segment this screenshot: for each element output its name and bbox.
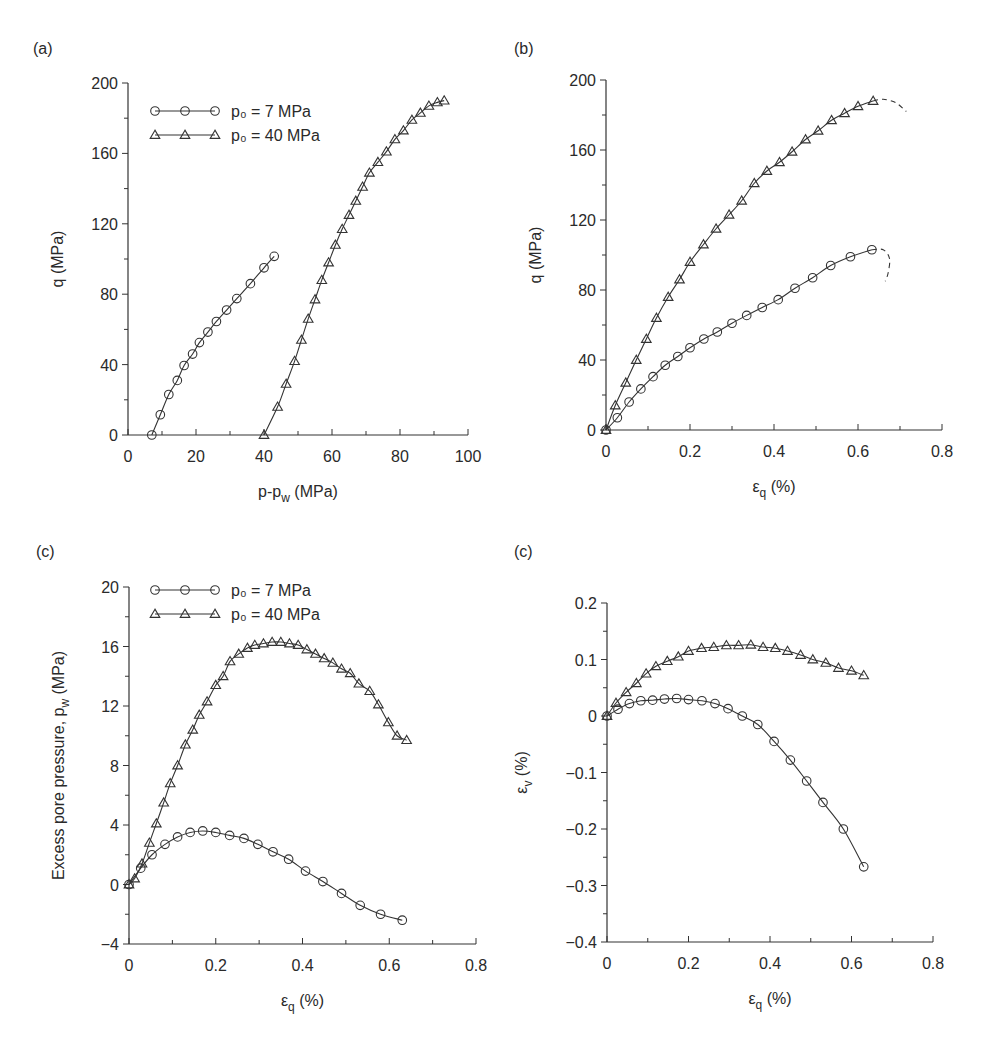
x-tick-label: 100 [455, 448, 482, 465]
y-axis-label: Excess pore pressure, pw (MPa) [50, 651, 72, 880]
y-axis-label: q (MPa) [49, 231, 66, 288]
x-axis-label: εq (%) [281, 992, 324, 1014]
y-tick-label: 40 [578, 352, 596, 369]
y-tick-label: 80 [100, 286, 118, 303]
x-tick-label: 80 [391, 448, 409, 465]
x-tick-label: 0.8 [465, 957, 487, 974]
y-axis-label: q (MPa) [527, 227, 544, 284]
x-tick-label: 0.2 [679, 443, 701, 460]
x-axis-label: εq (%) [752, 478, 795, 500]
triangle-marker-icon [210, 609, 220, 617]
series-line [607, 645, 864, 716]
y-tick-label: 0 [110, 877, 119, 894]
x-tick-label: 0 [124, 448, 133, 465]
panel-b-chart: 00.20.40.60.804080120160200εq (%)q (MPa) [527, 72, 953, 500]
y-tick-label: 0 [587, 422, 596, 439]
x-tick-label: 0.6 [847, 443, 869, 460]
y-tick-label: −0.2 [565, 821, 597, 838]
y-tick-label: 4 [110, 817, 119, 834]
x-tick-label: 0.6 [840, 955, 862, 972]
triangle-marker-icon [674, 652, 684, 660]
y-tick-label: 160 [569, 142, 596, 159]
x-tick-label: 0.4 [763, 443, 785, 460]
series-line [264, 101, 444, 435]
y-tick-label: 160 [91, 145, 118, 162]
triangle-marker-icon [210, 130, 220, 138]
y-tick-label: −4 [101, 936, 119, 953]
series-line [152, 256, 274, 435]
triangle-marker-icon [801, 135, 811, 143]
x-tick-label: 0 [603, 955, 612, 972]
x-tick-label: 0.2 [677, 955, 699, 972]
y-tick-label: −0.4 [565, 934, 597, 951]
x-tick-label: 60 [323, 448, 341, 465]
series-line [606, 101, 873, 430]
y-tick-label: 200 [569, 72, 596, 89]
x-axis-label: εq (%) [748, 990, 791, 1012]
series-line [873, 99, 906, 111]
y-tick-label: 20 [101, 579, 119, 596]
legend-entry-label: p₀ = 40 MPa [231, 606, 320, 623]
y-tick-label: 12 [101, 698, 119, 715]
y-tick-label: 80 [578, 282, 596, 299]
legend-entry-label: p₀ = 7 MPa [231, 582, 311, 599]
x-tick-label: 0.4 [291, 957, 313, 974]
legend-entry-label: p₀ = 40 MPa [231, 127, 320, 144]
panel-c-right-chart: 00.20.40.60.8−0.4−0.3−0.2−0.100.10.2εq (… [513, 595, 944, 1012]
triangle-marker-icon [150, 130, 160, 138]
legend: p₀ = 7 MPap₀ = 40 MPa [150, 582, 320, 623]
series-line [607, 698, 864, 866]
figure-canvas: 02040608010004080120160200p-pw (MPa)q (M… [0, 0, 989, 1049]
triangle-marker-icon [746, 640, 756, 648]
series-line [872, 249, 890, 281]
y-tick-label: 200 [91, 75, 118, 92]
triangle-marker-icon [150, 609, 160, 617]
y-tick-label: −0.1 [565, 765, 597, 782]
panel-c-left-chart: 00.20.40.60.8−4048121620εq (%)Excess por… [50, 579, 487, 1014]
triangle-marker-icon [762, 166, 772, 174]
y-tick-label: 16 [101, 639, 119, 656]
y-tick-label: 120 [91, 216, 118, 233]
x-tick-label: 40 [255, 448, 273, 465]
triangle-marker-icon [180, 130, 190, 138]
y-tick-label: 0 [588, 708, 597, 725]
y-tick-label: 120 [569, 212, 596, 229]
triangle-marker-icon [722, 641, 732, 649]
x-axis-label: p-pw (MPa) [258, 483, 338, 505]
legend-entry-label: p₀ = 7 MPa [231, 103, 311, 120]
x-tick-label: 0.8 [922, 955, 944, 972]
y-tick-label: 40 [100, 357, 118, 374]
x-tick-label: 0.4 [759, 955, 781, 972]
series-line [129, 831, 402, 920]
triangle-marker-icon [859, 671, 869, 679]
x-tick-label: 0.8 [931, 443, 953, 460]
x-tick-label: 20 [187, 448, 205, 465]
triangle-marker-icon [663, 656, 673, 664]
triangle-marker-icon [180, 609, 190, 617]
x-tick-label: 0.2 [205, 957, 227, 974]
series-line [129, 642, 407, 885]
y-tick-label: 8 [110, 758, 119, 775]
y-tick-label: 0.2 [575, 595, 597, 612]
y-tick-label: 0.1 [575, 652, 597, 669]
x-tick-label: 0.6 [378, 957, 400, 974]
legend: p₀ = 7 MPap₀ = 40 MPa [150, 103, 320, 144]
y-axis-label: εv (%) [513, 751, 535, 793]
x-tick-label: 0 [125, 957, 134, 974]
x-tick-label: 0 [602, 443, 611, 460]
y-tick-label: 0 [109, 427, 118, 444]
y-tick-label: −0.3 [565, 878, 597, 895]
